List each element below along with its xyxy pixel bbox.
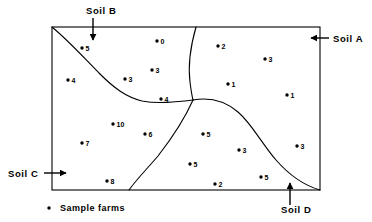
sample-farm-dot-icon: [226, 82, 229, 85]
legend-dot-icon: [47, 206, 50, 209]
sample-farm-point: 3: [150, 67, 159, 74]
sample-farm-dot-icon: [155, 39, 158, 42]
sample-farm-value: 7: [86, 140, 90, 147]
sample-farm-value: 1: [232, 81, 236, 88]
sample-farm-dot-icon: [66, 78, 69, 81]
soil-c-annotation: Soil C: [8, 168, 66, 179]
soil-b-label: Soil B: [86, 5, 117, 16]
soil-boundaries: [52, 27, 320, 190]
soil-d-label: Soil D: [281, 204, 312, 215]
sample-farm-point: 4: [159, 96, 168, 103]
sample-farm-value: 6: [149, 131, 153, 138]
sample-farm-dot-icon: [105, 179, 108, 182]
sample-farm-dot-icon: [159, 97, 162, 100]
sample-farm-dot-icon: [259, 175, 262, 178]
sample-farm-dot-icon: [201, 132, 204, 135]
sample-farm-point: 7: [80, 140, 89, 147]
sample-farm-value: 5: [265, 174, 269, 181]
sample-farm-value: 3: [156, 67, 160, 74]
sample-farm-dot-icon: [213, 182, 216, 185]
sample-farm-point: 2: [213, 181, 222, 188]
soil-map-figure: 502334311410657335582 Soil ASoil BSoil C…: [0, 0, 372, 222]
sample-farm-point: 5: [188, 161, 197, 168]
sample-farm-dot-icon: [295, 144, 298, 147]
sample-farm-value: 1: [291, 92, 295, 99]
sample-farm-point: 4: [66, 77, 75, 84]
sample-farm-value: 5: [194, 161, 198, 168]
sample-farm-dot-icon: [123, 77, 126, 80]
sample-farm-value: 4: [72, 77, 76, 84]
sample-farm-point: 8: [105, 178, 114, 185]
sample-farm-dot-icon: [263, 57, 266, 60]
sample-farm-dot-icon: [216, 44, 219, 47]
soil-region-labels: Soil ASoil BSoil CSoil D: [8, 5, 363, 215]
sample-farm-point: 1: [285, 92, 294, 99]
sample-farm-dot-icon: [111, 122, 114, 125]
sample-farm-points: 502334311410657335582: [66, 38, 304, 188]
sample-farm-value: 3: [129, 76, 133, 83]
sample-farm-point: 3: [295, 143, 304, 150]
sample-farm-point: 1: [226, 81, 235, 88]
soil-c-label: Soil C: [8, 168, 39, 179]
sample-farm-point: 6: [143, 131, 152, 138]
soil-b-soil-c-boundary: [52, 27, 193, 103]
legend-label: Sample farms: [60, 203, 125, 213]
sample-farm-point: 5: [201, 131, 210, 138]
sample-farm-value: 4: [165, 96, 169, 103]
sample-farm-dot-icon: [80, 141, 83, 144]
sample-farm-point: 2: [216, 43, 225, 50]
sample-farm-point: 3: [123, 76, 132, 83]
sample-farm-value: 8: [111, 178, 115, 185]
sample-farm-value: 2: [219, 181, 223, 188]
sample-farm-dot-icon: [237, 148, 240, 151]
sample-farm-point: 5: [259, 174, 268, 181]
sample-farm-value: 5: [86, 45, 90, 52]
sample-farm-dot-icon: [150, 68, 153, 71]
sample-farm-point: 3: [263, 56, 272, 63]
sample-farm-dot-icon: [188, 162, 191, 165]
sample-farm-value: 3: [301, 143, 305, 150]
soil-d-annotation: Soil D: [281, 183, 312, 215]
soil-c-soil-d-boundary: [129, 100, 193, 190]
soil-b-annotation: Soil B: [86, 5, 117, 40]
sample-farm-point: 10: [111, 121, 124, 128]
sample-farm-value: 10: [117, 121, 125, 128]
sample-farm-point: 3: [237, 147, 246, 154]
map-frame: [52, 27, 320, 190]
sample-farm-value: 2: [222, 43, 226, 50]
sample-farm-value: 3: [243, 147, 247, 154]
soil-a-soil-d-boundary: [189, 27, 196, 100]
sample-farm-point: 5: [80, 45, 89, 52]
legend: Sample farms: [47, 203, 125, 213]
sample-farm-dot-icon: [80, 46, 83, 49]
sample-farm-dot-icon: [143, 132, 146, 135]
sample-farm-point: 0: [155, 38, 164, 45]
sample-farm-dot-icon: [285, 93, 288, 96]
sample-farm-value: 0: [161, 38, 165, 45]
soil-a-annotation: Soil A: [311, 33, 363, 44]
sample-farm-value: 5: [207, 131, 211, 138]
sample-farm-value: 3: [269, 56, 273, 63]
map-canvas: 502334311410657335582 Soil ASoil BSoil C…: [0, 0, 372, 222]
soil-a-label: Soil A: [333, 33, 363, 44]
